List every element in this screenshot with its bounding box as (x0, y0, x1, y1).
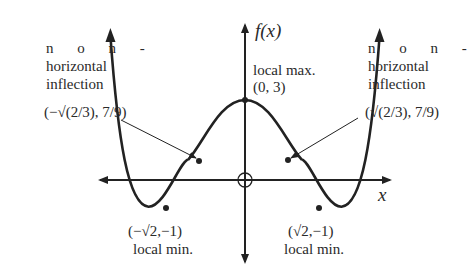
local-max-coord: (0, 3) (253, 79, 286, 96)
right-inflection-line3: inflection (368, 76, 425, 93)
local-max-label: local max. (253, 62, 315, 79)
left-min-label: local min. (133, 241, 193, 258)
left-inflection-line1: n o n - (46, 40, 155, 57)
right-inflection-line1: n o n - (368, 40, 471, 57)
left-inflection-coord: (−√(2/3), 7/9) (44, 104, 127, 121)
point-right-inflection (285, 157, 291, 163)
point-left-inflection (196, 158, 202, 164)
right-min-coord: (√2,−1) (288, 223, 333, 240)
left-min-coord: (−√2,−1) (128, 223, 182, 240)
right-min-label: local min. (284, 241, 344, 258)
y-axis-label: f(x) (255, 22, 281, 39)
leader-right-inflection (291, 118, 358, 158)
point-left-min (163, 205, 169, 211)
left-inflection-line2: horizontal (46, 58, 107, 75)
left-inflection-line3: inflection (46, 76, 103, 93)
point-right-min (316, 205, 322, 211)
right-inflection-line2: horizontal (368, 58, 429, 75)
leader-left-inflection (121, 120, 196, 158)
x-axis-label: x (378, 186, 386, 203)
right-inflection-coord: (√(2/3), 7/9) (365, 104, 439, 121)
point-local-max (242, 97, 248, 103)
